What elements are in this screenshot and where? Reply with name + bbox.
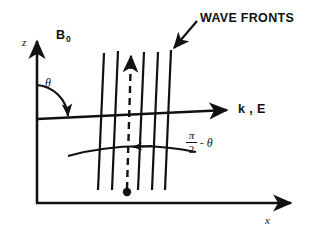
magnetic-field-label: B0 <box>56 29 71 42</box>
figure-canvas: WAVE FRONTS z x B0 k , E θ π 2 - θ <box>0 0 314 235</box>
complement-theta-symbol: θ <box>207 137 213 149</box>
k-e-vector-label: k , E <box>238 103 266 116</box>
wave-front-line <box>138 52 144 190</box>
diagram-svg <box>0 0 314 235</box>
wave-front-lines <box>98 50 171 190</box>
complement-angle-arrow <box>133 146 152 147</box>
source-point-dot <box>123 188 131 196</box>
wave-front-line <box>98 53 104 190</box>
magnetic-field-symbol: B <box>56 28 65 42</box>
wave-fronts-label: WAVE FRONTS <box>200 12 294 25</box>
theta-angle-label: θ <box>45 77 51 89</box>
fraction-numerator: π <box>188 130 196 142</box>
magnetic-field-subscript: 0 <box>66 34 71 44</box>
theta-arc <box>37 85 68 116</box>
minus-operator: - <box>200 137 204 149</box>
fraction-denominator: 2 <box>188 143 196 155</box>
wave-front-line <box>112 51 118 190</box>
propagation-ray-dashed <box>127 56 131 189</box>
x-axis-label: x <box>265 215 270 226</box>
complement-angle-label: π 2 - θ <box>186 130 213 155</box>
wave-front-line <box>165 50 171 190</box>
z-axis-label: z <box>22 37 26 48</box>
pi-over-two-fraction: π 2 <box>186 130 197 155</box>
wave-front-line <box>152 52 158 190</box>
wave-fronts-leader-line <box>174 21 197 48</box>
complement-angle-arc <box>68 146 196 156</box>
k-e-vector-line <box>37 110 227 119</box>
